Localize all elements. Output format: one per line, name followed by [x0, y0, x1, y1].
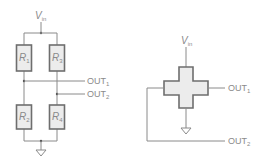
ground-icon — [36, 150, 46, 156]
cross-sensor-element — [164, 67, 208, 108]
wheatstone-bridge: Vin R1 R3 R2 R4 — [17, 10, 111, 156]
out1-label-left: OUT1 — [87, 76, 110, 87]
cross-sensor: Vin OUT1 OUT2 — [147, 35, 251, 147]
vin-label-left: Vin — [35, 10, 46, 22]
vin-label-right: Vin — [181, 35, 192, 47]
resistor-r1: R1 — [17, 45, 32, 71]
resistor-r2: R2 — [17, 105, 32, 129]
resistor-r3: R3 — [50, 45, 65, 71]
out2-label-left: OUT2 — [87, 89, 110, 100]
schematic-canvas: Vin R1 R3 R2 R4 — [0, 0, 264, 164]
out1-label-right: OUT1 — [228, 83, 251, 94]
out2-label-right: OUT2 — [228, 136, 251, 147]
ground-icon — [181, 128, 191, 134]
resistor-r4: R4 — [50, 105, 65, 129]
